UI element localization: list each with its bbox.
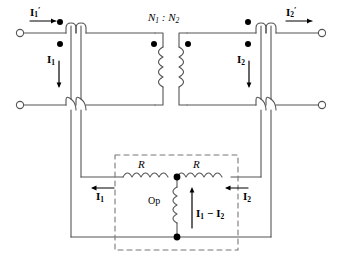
right-shunt-winding-bottom <box>256 97 276 110</box>
label-turns-ratio: N1 : N2 <box>148 12 179 24</box>
label-output-current-primed: I2′ <box>286 6 297 19</box>
polarity-dot-left-lower <box>57 41 63 47</box>
polarity-dot-left-upper <box>57 19 63 25</box>
terminal-top-right-circle <box>318 29 325 36</box>
left-shunt-winding-bottom <box>66 97 86 110</box>
junction-dot-bottom <box>174 234 181 241</box>
label-input-current-primed: I1′ <box>30 6 41 19</box>
arrow-branch-current <box>190 187 195 228</box>
label-left-shunt-current: I1 <box>47 54 55 66</box>
circuit-schematic-svg <box>0 0 342 265</box>
resistor-left-coil <box>123 173 168 177</box>
polarity-dot-core-primary <box>151 41 157 47</box>
polarity-dot-right-upper <box>245 19 251 25</box>
resistor-right-coil <box>177 173 222 177</box>
terminal-bottom-left-circle <box>16 101 23 108</box>
label-bottom-right-current: I2 <box>243 191 251 203</box>
label-resistor-left: R <box>138 159 145 170</box>
polarity-dot-right-lower <box>245 41 251 47</box>
arrow-output-current-primed <box>286 19 312 24</box>
label-shunt-element-op: Op <box>148 196 160 206</box>
arrow-right-shunt-current <box>247 61 252 88</box>
label-resistor-right: R <box>193 159 200 170</box>
arrow-bottom-left-current <box>91 186 114 191</box>
terminal-group <box>16 29 325 108</box>
shunt-op-coil <box>173 177 177 237</box>
left-shunt-winding-top <box>66 23 86 33</box>
label-bottom-left-current: I1 <box>96 191 104 203</box>
right-shunt-winding-top <box>256 23 276 33</box>
arrow-input-current-primed <box>30 19 56 24</box>
arrow-left-shunt-current <box>57 61 62 88</box>
polarity-dot-core-secondary <box>185 41 191 47</box>
junction-dot-top <box>174 174 181 181</box>
circuit-diagram-figure: I1′ I2′ I1 I2 N1 : N2 R R Op I1−I2 I1 I2 <box>0 0 342 265</box>
terminal-top-left-circle <box>16 29 23 36</box>
label-branch-current: I1−I2 <box>196 208 224 220</box>
label-right-shunt-current: I2 <box>237 54 245 66</box>
terminal-bottom-right-circle <box>318 101 325 108</box>
